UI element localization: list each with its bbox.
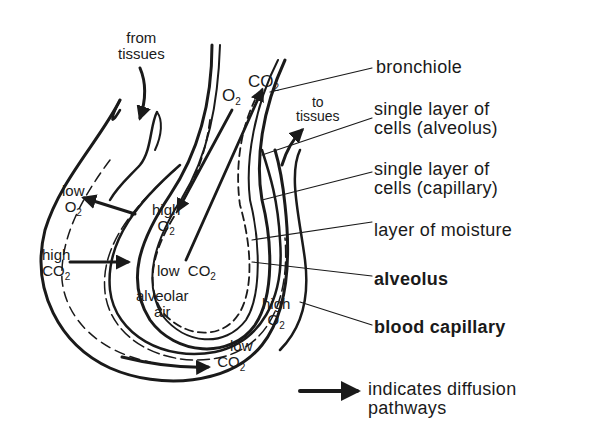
high-o2-capillary-label: high O2: [262, 296, 290, 330]
legend-text-line2: pathways: [368, 399, 446, 418]
label-capillary-cells-line1: single layer of: [374, 160, 490, 179]
leader-capillary-cells: [262, 172, 372, 200]
label-blood-capillary: blood capillary: [374, 318, 506, 337]
alveolar-air-label: alveolar air: [136, 288, 189, 320]
blood-flow-arrow: [122, 357, 208, 367]
high-o2-air-label: high O2: [152, 202, 180, 236]
label-bronchiole: bronchiole: [376, 58, 462, 77]
from-tissues-label: from tissues: [118, 30, 165, 62]
leader-moisture: [252, 222, 372, 240]
from-tissues-arrow: [140, 68, 145, 118]
low-co2-air-label: low CO2: [157, 263, 216, 281]
low-o2-blood-label: low O2: [62, 183, 85, 217]
label-alveolus: alveolus: [374, 270, 448, 289]
co2-top-label: CO2: [248, 74, 279, 92]
o2-top-label: O2: [222, 88, 241, 106]
label-moisture: layer of moisture: [374, 221, 512, 240]
label-alveolus-cells-line2: cells (alveolus): [374, 119, 498, 138]
label-alveolus-cells-line1: single layer of: [374, 100, 490, 119]
o2-in-arrow: [178, 110, 232, 210]
high-co2-blood-label: high CO2: [42, 247, 70, 281]
to-tissues-label: to tissues: [296, 95, 340, 123]
label-capillary-cells-line2: cells (capillary): [374, 179, 498, 198]
leader-bronchiole: [270, 68, 372, 92]
low-co2-capillary-label: low CO2: [230, 338, 253, 372]
legend-text-line1: indicates diffusion: [368, 380, 516, 399]
leader-blood-capillary: [300, 302, 372, 325]
